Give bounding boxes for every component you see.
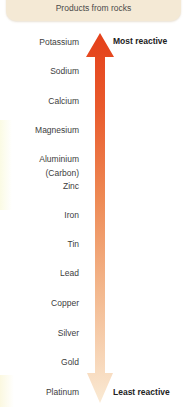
left-edge-glow-bottom (0, 375, 14, 407)
metal-label: Iron (64, 210, 79, 220)
metal-label: Silver (58, 328, 79, 338)
metal-label: Copper (51, 298, 79, 308)
metal-label: Platinum (46, 387, 79, 397)
metal-label: Potassium (39, 37, 79, 47)
metal-label: Aluminium (39, 154, 79, 164)
banner-title: Products from rocks (6, 3, 181, 13)
metal-label: (Carbon) (45, 168, 79, 178)
most-reactive-label: Most reactive (113, 36, 167, 46)
reactivity-arrow (86, 33, 114, 403)
metal-label: Magnesium (35, 125, 79, 135)
metal-label: Calcium (48, 96, 79, 106)
metal-label: Zinc (63, 181, 79, 191)
left-edge-glow (0, 120, 12, 210)
metal-label: Tin (68, 239, 80, 249)
metal-label: Gold (61, 357, 79, 367)
metal-label: Lead (60, 268, 79, 278)
metal-label: Sodium (50, 66, 79, 76)
header-banner: Products from rocks (6, 0, 181, 21)
least-reactive-label: Least reactive (113, 387, 170, 397)
